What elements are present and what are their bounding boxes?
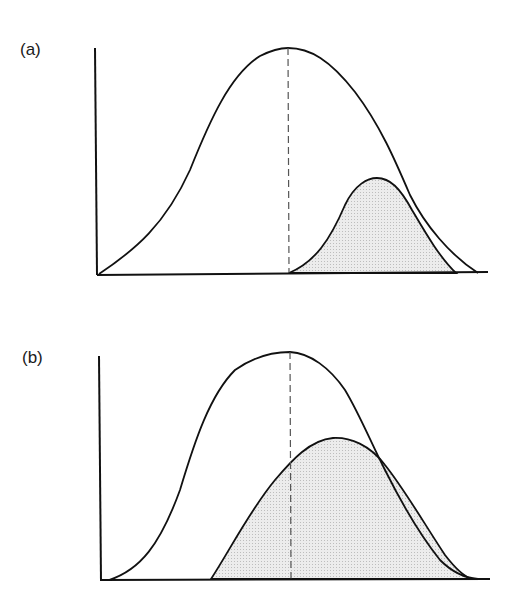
chart-a (95, 48, 488, 275)
x-axis-b (101, 579, 490, 580)
mean-dashed-line-a (288, 48, 289, 273)
y-axis-a (95, 48, 97, 275)
distribution-diagram (0, 0, 508, 602)
shaded-distribution-a (289, 178, 456, 273)
shaded-distribution-b (211, 438, 472, 579)
chart-b (99, 352, 490, 581)
y-axis-b (99, 356, 101, 581)
